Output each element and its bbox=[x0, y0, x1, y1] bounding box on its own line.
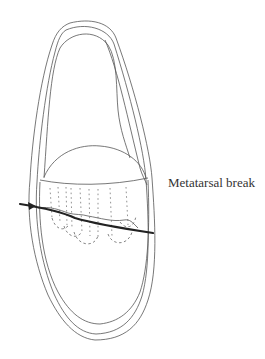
shoe-vamp-base bbox=[40, 178, 148, 184]
shoe-upper-right bbox=[105, 40, 147, 185]
shoe-opening-outline bbox=[44, 34, 130, 178]
shoe-inner-sole bbox=[40, 180, 149, 324]
arrowhead-icon bbox=[28, 202, 36, 210]
shoe-vamp-dome bbox=[44, 146, 146, 178]
metatarsal-break-label: Metatarsal break bbox=[168, 175, 255, 191]
